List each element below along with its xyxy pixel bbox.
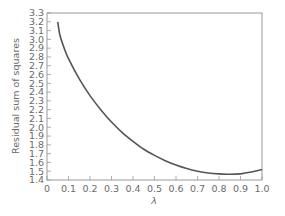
x-tick-label: 0.8 bbox=[211, 183, 226, 194]
x-tick-label: 0 bbox=[44, 183, 50, 194]
x-tick-label: 0.5 bbox=[147, 183, 162, 194]
y-tick-label: 3.3 bbox=[29, 7, 44, 18]
data-line bbox=[58, 22, 262, 174]
x-axis-label: λ bbox=[150, 195, 157, 206]
y-axis-label: Residual sum of squares bbox=[10, 38, 21, 154]
x-tick-label: 1.0 bbox=[254, 183, 269, 194]
x-tick-label: 0.9 bbox=[233, 183, 248, 194]
x-tick-label: 0.1 bbox=[61, 183, 76, 194]
x-tick-label: 0.3 bbox=[104, 183, 119, 194]
x-tick-label: 0.6 bbox=[168, 183, 183, 194]
line-chart: 1.41.51.61.71.81.92.02.12.22.32.42.52.62… bbox=[0, 0, 285, 216]
y-axis: 1.41.51.61.71.81.92.02.12.22.32.42.52.62… bbox=[29, 7, 51, 185]
x-tick-label: 0.7 bbox=[190, 183, 205, 194]
x-tick-label: 0.2 bbox=[82, 183, 97, 194]
x-axis: 00.10.20.30.40.50.60.70.80.91.0 bbox=[44, 176, 270, 194]
x-tick-label: 0.4 bbox=[125, 183, 140, 194]
